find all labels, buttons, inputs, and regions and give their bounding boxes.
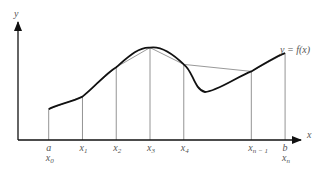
curve-label: y = f(x) [279, 44, 311, 56]
partition-label: xn [281, 152, 290, 165]
x-axis-label: x [306, 129, 312, 140]
curve-f [49, 47, 285, 109]
polygonal-approximation [49, 48, 285, 110]
y-axis-label: y [13, 8, 19, 19]
partition-label: xn − 1 [247, 142, 268, 155]
trapezoid-diagram: x y y = f(x) ax0x1x2x3x4xn − 1bxn [0, 0, 326, 173]
partition-label: x1 [78, 142, 87, 155]
partition-label: x0 [45, 152, 54, 165]
partition-label: x3 [146, 142, 155, 155]
partition-label: x2 [112, 142, 121, 155]
partition-label: x4 [180, 142, 189, 155]
